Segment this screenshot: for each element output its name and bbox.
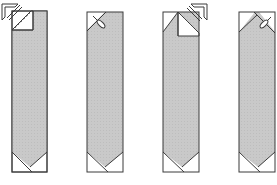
strip-fill bbox=[87, 12, 123, 172]
strip-step-3 bbox=[163, 4, 207, 172]
strip-step-1 bbox=[2, 4, 47, 172]
strip-step-2 bbox=[87, 12, 123, 172]
folding-diagram bbox=[0, 0, 277, 185]
strip-fill bbox=[239, 12, 275, 172]
strip-fill bbox=[12, 11, 47, 167]
strip-step-4 bbox=[239, 12, 275, 172]
